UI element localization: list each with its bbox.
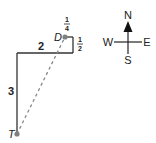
compass-west-label: W [103,36,114,48]
diagram-canvas: T D 3 2 1 4 1 2 N S W E [0,0,156,143]
compass-rose: N S W E [103,9,151,66]
fraction-quarter: 1 4 [64,16,70,32]
fraction-half-numerator: 1 [78,36,82,43]
fraction-half: 1 2 [77,36,83,52]
fraction-quarter-numerator: 1 [65,16,69,23]
fraction-half-denominator: 2 [78,45,82,52]
west-leg-label: 2 [38,40,44,52]
south-leg-label: 3 [8,85,14,97]
compass-north-label: N [124,9,132,21]
walking-path [17,37,73,134]
start-point-dot [14,131,19,136]
end-point-dot [62,34,67,39]
north-arrow-icon [124,21,133,32]
end-point-label: D [54,31,62,43]
compass-south-label: S [124,54,131,66]
fraction-quarter-denominator: 4 [65,25,69,32]
compass-east-label: E [143,36,150,48]
